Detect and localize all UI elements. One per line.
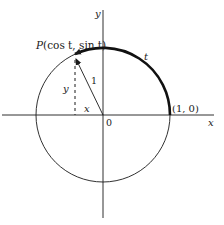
origin-label: 0 — [106, 117, 112, 128]
unit-circle-diagram: P(cos t, sin t) t 1 y x 0 (1, 0) x y — [0, 0, 224, 225]
unit-point-label: (1, 0) — [172, 103, 199, 114]
x-axis-label: x — [208, 117, 214, 128]
radius-label: 1 — [91, 75, 97, 86]
adj-side-label: x — [84, 103, 90, 114]
y-axis-label: y — [94, 8, 101, 19]
point-p-label: P(cos t, sin t) — [35, 39, 106, 51]
opp-side-label: y — [62, 83, 69, 94]
arc-label: t — [144, 51, 149, 62]
